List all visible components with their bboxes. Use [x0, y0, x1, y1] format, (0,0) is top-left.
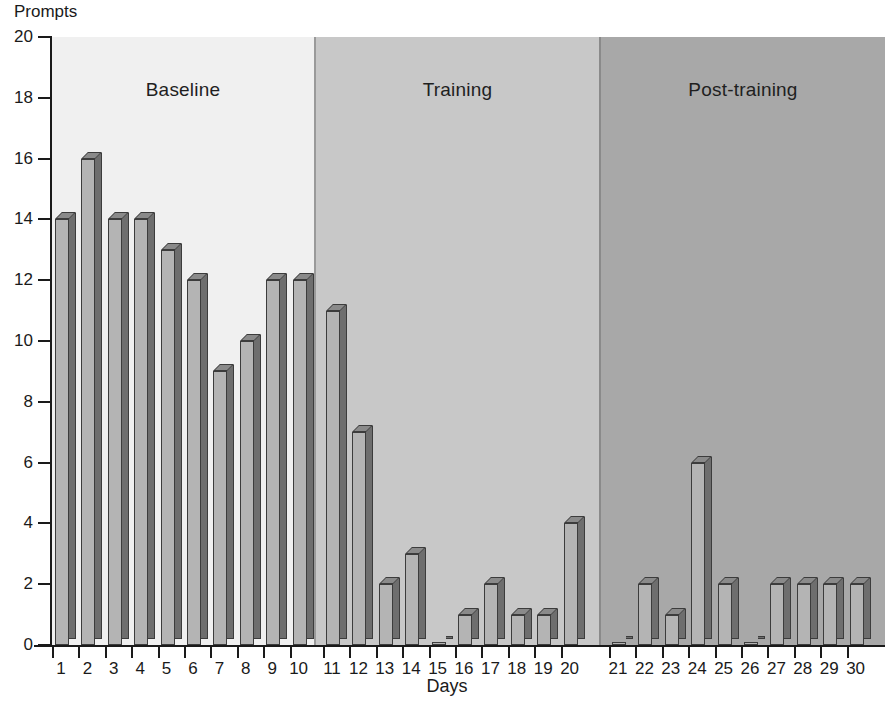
- x-axis-tick: [662, 647, 664, 658]
- bar-side-face: [732, 578, 739, 639]
- bar-side-face: [340, 305, 347, 639]
- bar-day-1: [55, 219, 69, 645]
- bar-side-face: [811, 578, 818, 639]
- x-axis-tick: [52, 647, 54, 658]
- bar-day-24: [691, 463, 705, 645]
- x-axis-tick: [715, 647, 717, 658]
- x-axis-tick: [847, 647, 849, 658]
- x-axis-tick: [78, 647, 80, 658]
- bar-side-face: [652, 578, 659, 639]
- bar-front-face: [511, 615, 525, 645]
- bar-front-face: [638, 584, 652, 645]
- bar-front-face: [240, 341, 254, 645]
- bar-side-face: [705, 457, 712, 639]
- bar-side-face: [578, 517, 585, 639]
- y-axis-tick: [38, 36, 50, 38]
- bar-day-7: [213, 371, 227, 645]
- bar-front-face: [134, 219, 148, 645]
- bar-side-face: [175, 244, 182, 639]
- bar-day-19: [537, 615, 551, 645]
- bar-day-13: [379, 584, 393, 645]
- bar-front-face: [352, 432, 366, 645]
- y-axis-tick-label: 0: [0, 635, 33, 655]
- x-axis-tick: [455, 647, 457, 658]
- y-axis-tick-label: 18: [0, 88, 33, 108]
- y-axis-tick: [38, 279, 50, 281]
- y-axis-tick-label: 4: [0, 513, 33, 533]
- bar-front-face: [484, 584, 498, 645]
- y-axis-tick-label: 10: [0, 331, 33, 351]
- y-axis-tick-label: 6: [0, 453, 33, 473]
- bar-side-face: [393, 578, 400, 639]
- bar-day-14: [405, 554, 419, 645]
- bar-side-face: [758, 636, 765, 639]
- prompts-by-day-bar-chart: Prompts Baseline Training Post-training …: [0, 0, 894, 711]
- x-axis-tick: [767, 647, 769, 658]
- x-axis-tick: [481, 647, 483, 658]
- bar-side-face: [864, 578, 871, 639]
- y-axis-title: Prompts: [14, 2, 77, 22]
- phase-label-baseline: Baseline: [52, 79, 314, 101]
- bar-day-30: [850, 584, 864, 645]
- bar-day-20: [564, 523, 578, 645]
- bar-day-23: [665, 615, 679, 645]
- bar-front-face: [266, 280, 280, 645]
- bar-side-face: [626, 636, 633, 639]
- x-axis-tick: [131, 647, 133, 658]
- phase-panel-post-training: Post-training: [601, 37, 885, 645]
- x-axis-tick: [290, 647, 292, 658]
- x-axis-tick: [561, 647, 563, 658]
- x-axis-tick: [609, 647, 611, 658]
- bar-front-face: [797, 584, 811, 645]
- bar-front-face: [81, 159, 95, 645]
- bar-side-face: [122, 213, 129, 639]
- x-axis-title: Days: [0, 676, 894, 697]
- bar-front-face: [405, 554, 419, 645]
- bar-front-face: [770, 584, 784, 645]
- bar-front-face: [326, 311, 340, 645]
- bar-front-face: [537, 615, 551, 645]
- bar-side-face: [366, 426, 373, 639]
- bar-day-11: [326, 311, 340, 645]
- x-axis-tick: [429, 647, 431, 658]
- bar-front-face: [850, 584, 864, 645]
- x-axis-tick: [741, 647, 743, 658]
- bar-side-face: [784, 578, 791, 639]
- x-axis-line: [34, 645, 885, 647]
- y-axis-tick: [38, 644, 50, 646]
- x-axis-tick: [349, 647, 351, 658]
- bar-front-face: [55, 219, 69, 645]
- bar-day-6: [187, 280, 201, 645]
- bar-side-face: [446, 636, 453, 639]
- bar-day-5: [161, 250, 175, 645]
- y-axis-tick: [38, 583, 50, 585]
- bar-front-face: [564, 523, 578, 645]
- bar-side-face: [69, 213, 76, 639]
- y-axis-tick: [38, 158, 50, 160]
- x-axis-tick: [376, 647, 378, 658]
- bar-side-face: [498, 578, 505, 639]
- x-axis-tick: [237, 647, 239, 658]
- x-axis-tick: [263, 647, 265, 658]
- y-axis-tick-label: 16: [0, 149, 33, 169]
- x-axis-tick: [184, 647, 186, 658]
- bar-day-16: [458, 615, 472, 645]
- x-axis-tick: [402, 647, 404, 658]
- bar-day-29: [823, 584, 837, 645]
- bar-front-face: [293, 280, 307, 645]
- x-axis-tick: [794, 647, 796, 658]
- bar-day-8: [240, 341, 254, 645]
- bar-day-27: [770, 584, 784, 645]
- bar-front-face: [718, 584, 732, 645]
- bar-day-22: [638, 584, 652, 645]
- x-axis-tick: [820, 647, 822, 658]
- x-axis-tick: [210, 647, 212, 658]
- bar-day-25: [718, 584, 732, 645]
- y-axis-tick: [38, 522, 50, 524]
- x-axis-tick: [158, 647, 160, 658]
- x-axis-tick: [688, 647, 690, 658]
- bar-front-face: [458, 615, 472, 645]
- bar-day-28: [797, 584, 811, 645]
- y-axis-tick-label: 14: [0, 209, 33, 229]
- x-axis-tick: [105, 647, 107, 658]
